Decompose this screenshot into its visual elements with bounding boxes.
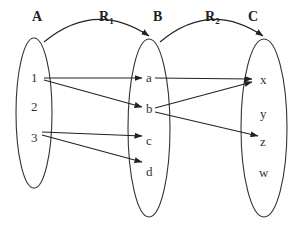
element-2: 2 bbox=[31, 99, 38, 114]
element-d: d bbox=[146, 164, 153, 179]
arrow-a-to-x bbox=[155, 78, 252, 79]
set-b-label: B bbox=[153, 9, 162, 24]
element-c: c bbox=[146, 133, 152, 148]
arrow-3-to-c bbox=[42, 132, 142, 136]
set-c-label: C bbox=[248, 9, 258, 24]
set-a-label: A bbox=[32, 9, 43, 24]
relation-r2-subscript: 2 bbox=[215, 16, 220, 26]
relation-r2-label: R2 bbox=[205, 9, 220, 26]
element-y: y bbox=[260, 106, 267, 121]
element-1: 1 bbox=[31, 70, 38, 85]
relation-diagram: A B C R1 R2 1 2 3 a b c d x y z w bbox=[0, 0, 298, 233]
set-c-ellipse bbox=[241, 39, 287, 217]
relation-r1-arc bbox=[44, 19, 149, 42]
element-z: z bbox=[260, 134, 266, 149]
arrow-3-to-d bbox=[42, 135, 142, 162]
arrow-1-to-b bbox=[44, 80, 142, 107]
element-x: x bbox=[260, 72, 267, 87]
element-b: b bbox=[146, 101, 153, 116]
element-w: w bbox=[259, 165, 269, 180]
element-3: 3 bbox=[31, 130, 38, 145]
relation-r1-label: R1 bbox=[99, 9, 114, 26]
element-a: a bbox=[146, 70, 152, 85]
set-b-ellipse bbox=[128, 39, 170, 217]
arrow-b-to-x bbox=[155, 82, 252, 108]
